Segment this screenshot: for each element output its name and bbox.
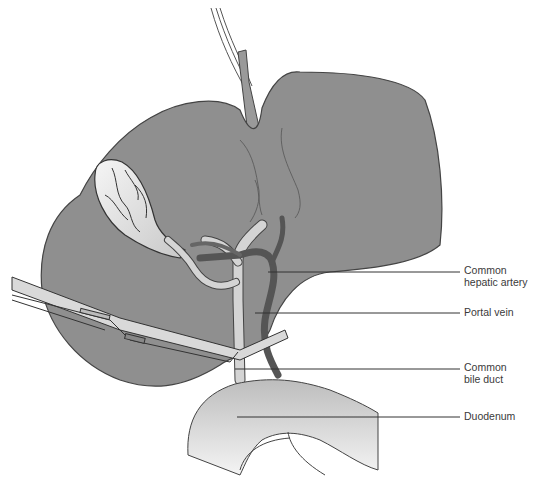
label-line-2: bile duct bbox=[464, 373, 507, 385]
label-common-hepatic-artery: Common hepatic artery bbox=[464, 264, 528, 288]
label-duodenum: Duodenum bbox=[464, 410, 515, 422]
duodenum bbox=[188, 380, 378, 475]
label-line-1: Common bbox=[464, 361, 507, 373]
label-line-2: hepatic artery bbox=[464, 276, 528, 288]
label-portal-vein: Portal vein bbox=[464, 306, 514, 318]
label-line-1: Duodenum bbox=[464, 410, 515, 422]
label-line-1: Common bbox=[464, 264, 528, 276]
label-common-bile-duct: Common bile duct bbox=[464, 361, 507, 385]
label-line-1: Portal vein bbox=[464, 306, 514, 318]
